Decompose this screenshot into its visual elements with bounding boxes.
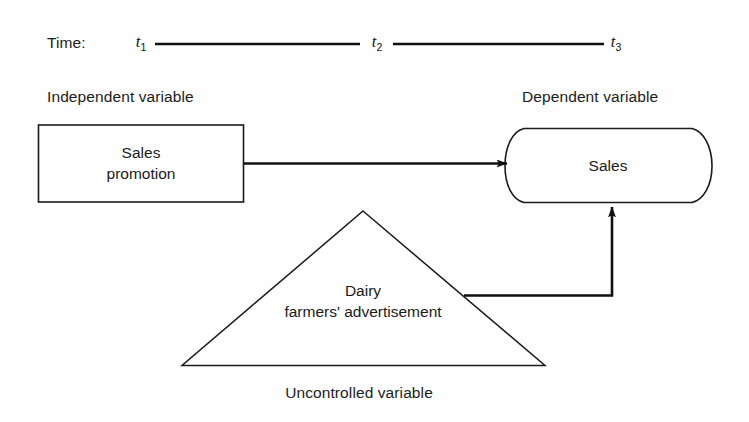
timeline-point-t1: t1: [136, 32, 146, 53]
timeline-point-t2: t2: [372, 32, 382, 53]
timeline-point-t3: t3: [611, 32, 621, 53]
uncontrolled-variable-node-line1: Dairy: [284, 280, 441, 301]
uncontrolled-variable-node-text: Dairy farmers' advertisement: [284, 280, 441, 322]
diagram-vector-layer: [0, 0, 749, 422]
arrow-advertisement-to-sales: [464, 207, 612, 296]
diagram-canvas: Time: t1 t2 t3 Independent variable Depe…: [0, 0, 749, 422]
independent-variable-node-line1: Sales: [107, 142, 176, 163]
dependent-variable-caption: Dependent variable: [522, 88, 658, 106]
uncontrolled-variable-node-line2: farmers' advertisement: [284, 301, 441, 322]
timeline-label: Time:: [47, 34, 86, 52]
independent-variable-caption: Independent variable: [47, 88, 194, 106]
independent-variable-node-text: Sales promotion: [107, 142, 176, 184]
timeline-point-t3-subscript: 3: [615, 41, 621, 53]
timeline-point-t2-subscript: 2: [376, 41, 382, 53]
timeline-point-t1-subscript: 1: [140, 41, 146, 53]
dependent-variable-node-text: Sales: [589, 155, 628, 176]
independent-variable-node-line2: promotion: [107, 163, 176, 184]
dependent-variable-node-line1: Sales: [589, 155, 628, 176]
uncontrolled-variable-caption: Uncontrolled variable: [285, 384, 433, 402]
